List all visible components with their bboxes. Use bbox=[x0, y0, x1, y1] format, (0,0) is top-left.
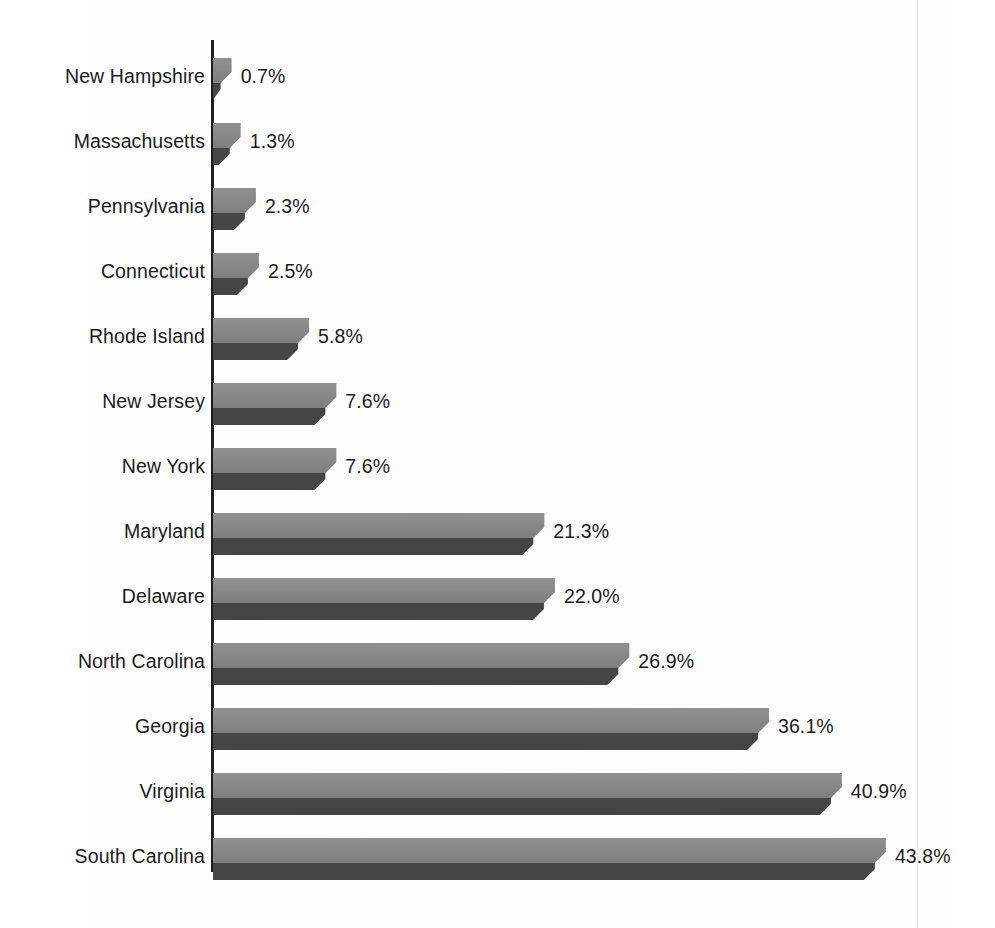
bar-bottom-face bbox=[213, 733, 758, 750]
bar-bottom-face bbox=[213, 668, 618, 685]
bar-top-face bbox=[213, 188, 256, 213]
bar-category-label: South Carolina bbox=[0, 845, 205, 868]
bar-category-label: Rhode Island bbox=[0, 325, 205, 348]
bar-category-label: North Carolina bbox=[0, 650, 205, 673]
bar-category-label: Massachusetts bbox=[0, 130, 205, 153]
bar-bottom-face bbox=[213, 343, 298, 360]
bar-top-face bbox=[213, 58, 232, 83]
bar-top-face bbox=[213, 708, 769, 733]
bar-category-label: Pennsylvania bbox=[0, 195, 205, 218]
bar-value-label: 0.7% bbox=[241, 65, 286, 88]
bar-value-label: 2.3% bbox=[265, 195, 310, 218]
bar-bottom-face bbox=[213, 538, 533, 555]
bar-value-label: 1.3% bbox=[250, 130, 295, 153]
bar-bottom-face bbox=[213, 278, 248, 295]
bar-bottom-face bbox=[213, 83, 221, 100]
bar-bottom-face bbox=[213, 798, 831, 815]
bar-value-label: 36.1% bbox=[778, 715, 834, 738]
bar-shape bbox=[213, 188, 260, 234]
bar-value-label: 21.3% bbox=[553, 520, 609, 543]
bar-top-face bbox=[213, 643, 629, 668]
bar-chart: New Hampshire0.7%Massachusetts1.3%Pennsy… bbox=[0, 0, 995, 928]
bar-value-label: 43.8% bbox=[895, 845, 951, 868]
bar-top-face bbox=[213, 448, 336, 473]
bar-shape bbox=[213, 578, 559, 624]
bar-value-label: 7.6% bbox=[345, 455, 390, 478]
bar-category-label: Virginia bbox=[0, 780, 205, 803]
bar-bottom-face bbox=[213, 213, 245, 230]
bar-top-face bbox=[213, 513, 544, 538]
bar-category-label: Delaware bbox=[0, 585, 205, 608]
bar-bottom-face bbox=[213, 863, 875, 880]
bar-shape bbox=[213, 513, 548, 559]
bar-shape bbox=[213, 773, 846, 819]
bar-category-label: Georgia bbox=[0, 715, 205, 738]
bar-top-face bbox=[213, 773, 842, 798]
bar-category-label: New Jersey bbox=[0, 390, 205, 413]
bar-bottom-face bbox=[213, 603, 544, 620]
bar-bottom-face bbox=[213, 408, 325, 425]
bar-shape bbox=[213, 643, 633, 689]
bar-shape bbox=[213, 58, 236, 104]
bar-shape bbox=[213, 383, 340, 429]
bar-top-face bbox=[213, 318, 309, 343]
bar-top-face bbox=[213, 253, 259, 278]
bar-shape bbox=[213, 708, 773, 754]
bar-value-label: 7.6% bbox=[345, 390, 390, 413]
bar-category-label: Maryland bbox=[0, 520, 205, 543]
bar-category-label: New Hampshire bbox=[0, 65, 205, 88]
bar-shape bbox=[213, 253, 263, 299]
bar-shape bbox=[213, 838, 890, 884]
bar-shape bbox=[213, 123, 245, 169]
bar-top-face bbox=[213, 578, 555, 603]
bar-shape bbox=[213, 448, 340, 494]
bar-value-label: 2.5% bbox=[268, 260, 313, 283]
scan-edge-artifact bbox=[917, 0, 918, 928]
bar-bottom-face bbox=[213, 473, 325, 490]
bar-value-label: 22.0% bbox=[564, 585, 620, 608]
bar-bottom-face bbox=[213, 148, 230, 165]
bar-category-label: Connecticut bbox=[0, 260, 205, 283]
bar-value-label: 5.8% bbox=[318, 325, 363, 348]
bar-value-label: 40.9% bbox=[851, 780, 907, 803]
bar-shape bbox=[213, 318, 313, 364]
bar-top-face bbox=[213, 838, 886, 863]
bar-top-face bbox=[213, 123, 241, 148]
bar-value-label: 26.9% bbox=[638, 650, 694, 673]
bar-top-face bbox=[213, 383, 336, 408]
bar-category-label: New York bbox=[0, 455, 205, 478]
